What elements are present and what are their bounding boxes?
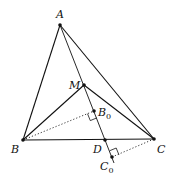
label-c0-sub: 0 — [108, 166, 113, 175]
label-m: M — [68, 79, 81, 92]
point-c0 — [110, 155, 114, 159]
label-c: C — [157, 143, 166, 156]
right-angle-marker-c0 — [110, 148, 119, 155]
segment-bc — [23, 139, 154, 140]
point-d — [103, 138, 107, 142]
label-a: A — [55, 8, 64, 21]
label-b0: B0 — [97, 106, 111, 121]
perpendicular-b-b0 — [23, 111, 94, 140]
cevian-ad-extended — [60, 25, 114, 163]
point-a — [58, 23, 62, 27]
label-d: D — [92, 143, 102, 156]
label-b0-sub: 0 — [106, 112, 111, 121]
label-c0: C0 — [100, 160, 114, 175]
point-b0 — [92, 109, 96, 113]
point-b — [21, 138, 25, 142]
point-c — [152, 137, 156, 141]
label-b0-main: B — [97, 106, 106, 119]
point-m — [82, 83, 86, 87]
geometry-diagram: A B C M D B0 C0 — [0, 0, 177, 181]
label-b: B — [10, 143, 19, 156]
